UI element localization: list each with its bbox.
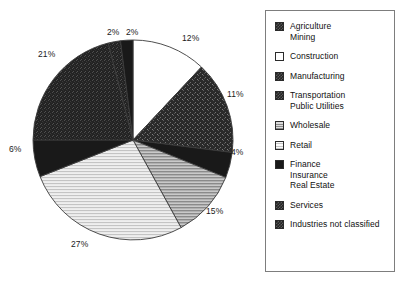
pie-data-label: 21% <box>38 50 55 59</box>
legend-label-line: Construction <box>290 51 338 62</box>
pie-chart-area: 12%11%4%15%27%6%21%2%2% <box>0 0 262 287</box>
pie-data-label: 27% <box>71 240 88 249</box>
legend-item[interactable]: Industries not classified <box>275 219 394 230</box>
pie-data-label: 11% <box>227 90 244 99</box>
legend-swatch-icon <box>275 121 284 130</box>
legend-swatch-icon <box>275 141 284 150</box>
legend-label-line: Public Utilities <box>290 101 345 112</box>
pie-data-label: 6% <box>9 145 22 154</box>
legend-label-line: Industries not classified <box>290 219 380 230</box>
legend-item[interactable]: Retail <box>275 140 394 151</box>
pie-slices <box>33 40 233 240</box>
pie-data-label: 12% <box>182 34 199 43</box>
legend-label: Wholesale <box>290 120 330 131</box>
legend-swatch-icon <box>275 160 284 169</box>
legend-label-line: Services <box>290 200 323 211</box>
legend-label-line: Manufacturing <box>290 71 345 82</box>
legend-label-line: Real Estate <box>290 180 335 191</box>
legend-label: Industries not classified <box>290 219 380 230</box>
legend-swatch-icon <box>275 22 284 31</box>
pie-data-label: 2% <box>126 28 139 37</box>
legend-swatch-icon <box>275 91 284 100</box>
legend-label: TransportationPublic Utilities <box>290 90 345 111</box>
legend-label: FinanceInsuranceReal Estate <box>290 159 335 191</box>
pie-chart-svg <box>0 0 262 287</box>
legend-item[interactable]: Construction <box>275 51 394 62</box>
legend-label: Construction <box>290 51 338 62</box>
legend-item[interactable]: Manufacturing <box>275 71 394 82</box>
legend-swatch-icon <box>275 201 284 210</box>
pie-data-label: 4% <box>231 148 244 157</box>
legend-box: AgricultureMiningConstructionManufacturi… <box>265 10 395 272</box>
legend-label-line: Retail <box>290 140 312 151</box>
pie-data-label: 15% <box>206 207 223 216</box>
legend-label: Retail <box>290 140 312 151</box>
legend-label-line: Agriculture <box>290 21 331 32</box>
legend-swatch-icon <box>275 72 284 81</box>
legend-label-line: Insurance <box>290 170 335 181</box>
chart-root: 12%11%4%15%27%6%21%2%2% AgricultureMinin… <box>0 0 402 287</box>
legend-label: Manufacturing <box>290 71 345 82</box>
legend-item[interactable]: AgricultureMining <box>275 21 394 42</box>
legend-label-line: Wholesale <box>290 120 330 131</box>
legend-item[interactable]: Services <box>275 200 394 211</box>
legend-swatch-icon <box>275 52 284 61</box>
legend-item[interactable]: FinanceInsuranceReal Estate <box>275 159 394 191</box>
legend-label: Services <box>290 200 323 211</box>
legend-item[interactable]: Wholesale <box>275 120 394 131</box>
pie-data-label: 2% <box>107 28 120 37</box>
legend-label-line: Mining <box>290 32 331 43</box>
legend-label-line: Transportation <box>290 90 345 101</box>
legend-label: AgricultureMining <box>290 21 331 42</box>
legend-swatch-icon <box>275 220 284 229</box>
legend-label-line: Finance <box>290 159 335 170</box>
legend-item[interactable]: TransportationPublic Utilities <box>275 90 394 111</box>
